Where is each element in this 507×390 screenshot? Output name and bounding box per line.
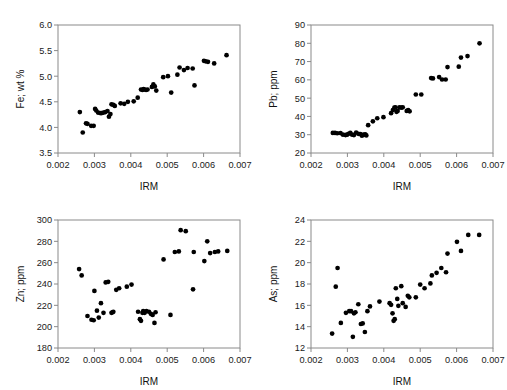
data-point: [91, 124, 96, 129]
data-point: [392, 317, 397, 322]
data-point: [363, 330, 368, 335]
x-tick-label-pb-2: 0.004: [372, 160, 395, 170]
scatter-chart-fe: 3.54.04.55.05.56.00.0020.0030.0040.0050.…: [0, 0, 253, 195]
data-point: [399, 284, 404, 289]
y-tick-label-pb-3: 50: [295, 94, 305, 104]
data-point: [456, 64, 461, 69]
data-point: [455, 240, 460, 245]
panel-fe: 3.54.04.55.05.56.00.0020.0030.0040.0050.…: [0, 0, 253, 195]
scatter-chart-pb: 20304050607080900.0020.0030.0040.0050.00…: [253, 0, 506, 195]
data-point: [419, 92, 424, 97]
y-tick-label-zn-2: 220: [37, 301, 52, 311]
data-point: [368, 304, 373, 309]
y-tick-label-as-3: 18: [295, 279, 305, 289]
x-tick-label-zn-0: 0.002: [47, 355, 70, 365]
data-point: [224, 53, 229, 58]
data-point: [400, 301, 405, 306]
x-tick-label-fe-0: 0.002: [47, 160, 70, 170]
data-point: [178, 228, 183, 233]
data-point: [377, 299, 382, 304]
x-tick-label-as-4: 0.006: [445, 355, 468, 365]
y-axis-title-as: As; ppm: [268, 266, 279, 303]
data-point: [395, 297, 400, 302]
data-point: [145, 87, 150, 92]
data-point: [364, 133, 369, 138]
plot-frame-zn: [58, 220, 240, 348]
x-axis-title-zn: IRM: [140, 376, 158, 387]
data-point: [183, 229, 188, 234]
data-point: [356, 302, 361, 307]
data-point: [330, 331, 335, 336]
data-point: [333, 284, 338, 289]
y-tick-label-fe-1: 4.0: [39, 123, 52, 133]
x-tick-label-as-5: 0.007: [482, 355, 505, 365]
x-tick-label-as-3: 0.005: [409, 355, 432, 365]
x-axis-title-pb: IRM: [393, 181, 411, 192]
data-point: [177, 249, 182, 254]
data-point: [172, 250, 177, 255]
y-tick-label-zn-3: 240: [37, 279, 52, 289]
data-point: [371, 119, 376, 124]
scatter-plot-figure: 3.54.04.55.05.56.00.0020.0030.0040.0050.…: [0, 0, 507, 390]
data-point: [208, 251, 213, 256]
data-point: [434, 270, 439, 275]
data-point: [91, 318, 96, 323]
data-point: [190, 66, 195, 71]
data-point: [111, 309, 116, 314]
x-tick-label-pb-1: 0.003: [336, 160, 359, 170]
x-tick-label-as-2: 0.004: [372, 355, 395, 365]
data-point: [135, 95, 140, 100]
data-point: [202, 259, 207, 264]
data-point: [85, 314, 90, 319]
data-point: [205, 239, 210, 244]
x-tick-label-fe-4: 0.006: [192, 160, 215, 170]
data-point: [413, 295, 418, 300]
data-point: [353, 310, 358, 315]
y-tick-label-pb-5: 70: [295, 57, 305, 67]
x-tick-label-fe-5: 0.007: [229, 160, 252, 170]
x-tick-label-zn-5: 0.007: [229, 355, 252, 365]
data-point: [465, 54, 470, 59]
data-point: [191, 287, 196, 292]
data-point: [126, 99, 131, 104]
y-tick-label-zn-4: 260: [37, 258, 52, 268]
x-axis-title-as: IRM: [393, 376, 411, 387]
data-point: [225, 249, 230, 254]
panel-as: 121416182022240.0020.0030.0040.0050.0060…: [253, 195, 506, 390]
data-point: [431, 76, 436, 81]
data-point: [152, 84, 157, 89]
data-point: [400, 105, 405, 110]
data-point: [77, 267, 82, 272]
data-point: [92, 289, 97, 294]
data-point: [185, 66, 190, 71]
x-tick-label-zn-2: 0.004: [119, 355, 142, 365]
data-point: [124, 284, 129, 289]
y-tick-label-as-2: 16: [295, 301, 305, 311]
data-point: [136, 309, 141, 314]
scatter-chart-zn: 1802002202402602803000.0020.0030.0040.00…: [0, 195, 253, 390]
y-tick-label-pb-0: 20: [295, 148, 305, 158]
data-point: [407, 295, 412, 300]
data-point: [177, 65, 182, 70]
y-tick-label-fe-5: 6.0: [39, 20, 52, 30]
data-point: [161, 257, 166, 262]
data-point: [166, 74, 171, 79]
data-point: [139, 318, 144, 323]
y-tick-label-as-0: 12: [295, 343, 305, 353]
scatter-chart-as: 121416182022240.0020.0030.0040.0050.0060…: [253, 195, 506, 390]
data-point: [466, 233, 471, 238]
data-point: [80, 130, 85, 135]
data-point: [396, 304, 401, 309]
data-point: [365, 309, 370, 314]
y-tick-label-pb-1: 30: [295, 130, 305, 140]
data-point: [339, 321, 344, 326]
data-point: [117, 286, 122, 291]
data-point: [106, 280, 111, 285]
y-tick-label-as-1: 14: [295, 322, 305, 332]
data-point: [96, 315, 101, 320]
x-axis-title-fe: IRM: [140, 181, 158, 192]
x-tick-label-fe-3: 0.005: [156, 160, 179, 170]
x-tick-label-pb-0: 0.002: [300, 160, 323, 170]
data-point: [192, 83, 197, 88]
x-tick-label-pb-4: 0.006: [445, 160, 468, 170]
